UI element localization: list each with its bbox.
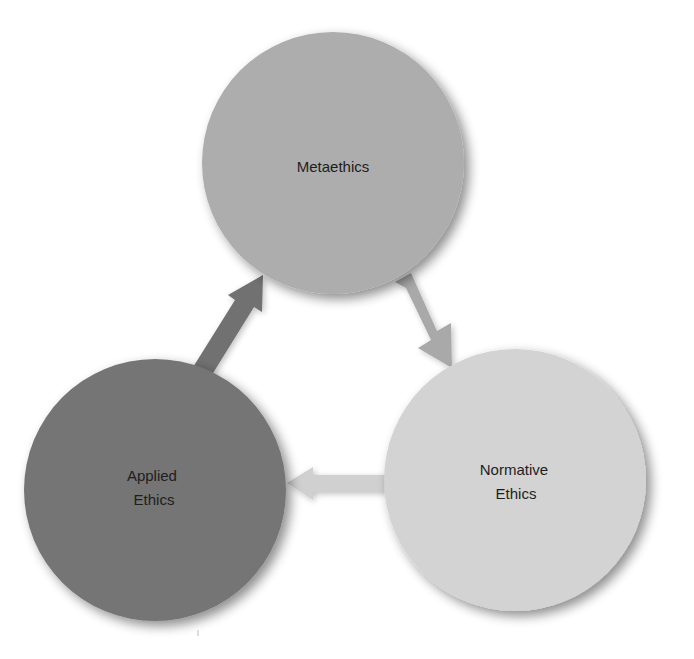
arrow-normative-to-applied — [287, 467, 392, 500]
applied-ethics-label-line-1: Applied — [127, 467, 177, 484]
arrow-down-right-icon — [395, 273, 452, 368]
ethics-cycle-diagram: Metaethics Normative Ethics Applied Ethi… — [0, 0, 694, 659]
node-normative-ethics: Normative Ethics — [384, 349, 646, 611]
applied-ethics-label-line-2: Ethics — [134, 491, 175, 508]
metaethics-label: Metaethics — [297, 158, 370, 175]
arrow-metaethics-to-normative — [395, 273, 452, 368]
normative-ethics-label-line-2: Ethics — [496, 485, 537, 502]
normative-ethics-circle — [384, 349, 646, 611]
arrow-left-icon — [287, 467, 392, 500]
svg-text:Metaethics: Metaethics — [297, 158, 370, 175]
arrow-up-right-icon — [190, 275, 263, 378]
normative-ethics-label-line-1: Normative — [480, 461, 548, 478]
node-metaethics: Metaethics — [202, 32, 464, 294]
node-applied-ethics: Applied Ethics — [24, 359, 286, 621]
applied-ethics-circle — [24, 359, 286, 621]
arrow-applied-to-metaethics — [190, 275, 263, 378]
